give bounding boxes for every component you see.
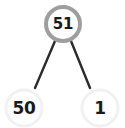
connector-right-line [71, 41, 90, 88]
number-bond-diagram: 51 50 1 [0, 0, 125, 128]
node-child-right-value: 1 [80, 88, 120, 128]
node-parent-value: 51 [44, 5, 82, 43]
connector-left-line [35, 41, 55, 88]
node-child-left-value: 50 [4, 88, 44, 128]
